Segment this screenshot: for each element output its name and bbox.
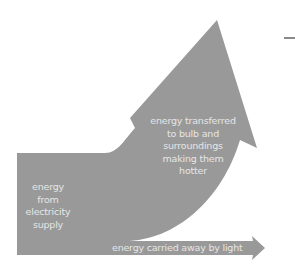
heat-label-line: energy transferred <box>150 115 236 128</box>
heat-label-line: surroundings <box>150 140 236 153</box>
input-label-line: supply <box>18 219 78 232</box>
heat-label-line: to bulb and <box>150 128 236 141</box>
input-label: energy from electricity supply <box>18 181 78 231</box>
heat-label-line: making them <box>150 153 236 166</box>
dash-mark <box>284 37 295 39</box>
energy-flow-diagram <box>0 0 295 272</box>
input-label-line: from <box>18 194 78 207</box>
input-label-line: energy <box>18 181 78 194</box>
light-output-label: energy carried away by light <box>112 242 242 255</box>
heat-label-line: hotter <box>150 165 236 178</box>
input-label-line: electricity <box>18 206 78 219</box>
heat-output-label: energy transferred to bulb and surroundi… <box>150 115 236 178</box>
